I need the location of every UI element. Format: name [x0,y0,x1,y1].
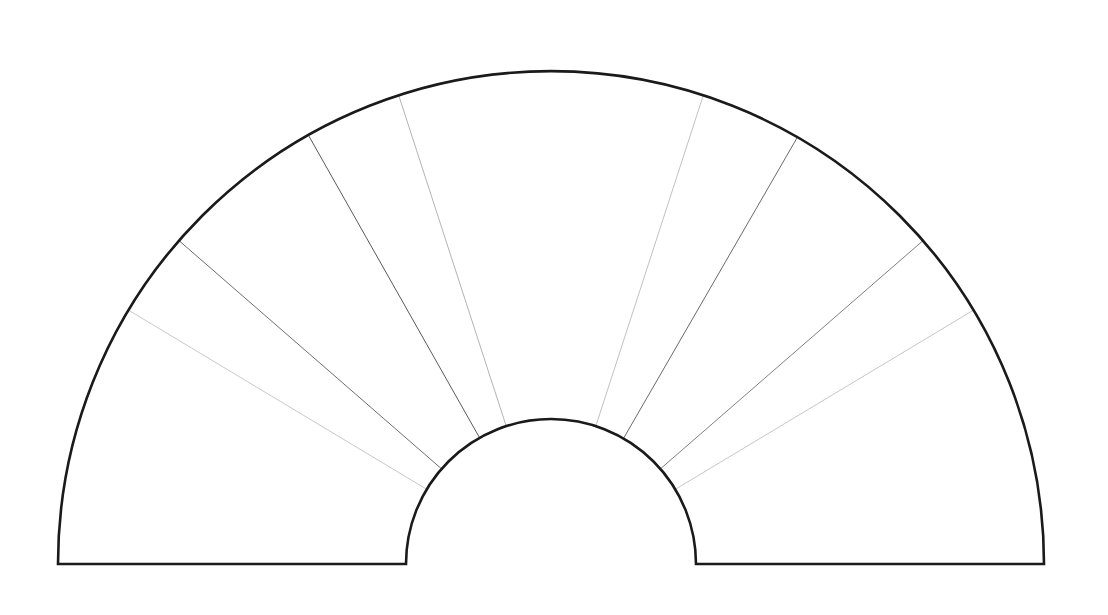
divider-7 [660,241,923,469]
divider-5 [596,95,704,426]
divider-lines-group [128,95,973,489]
divider-1 [128,310,426,489]
annulus-outline-path [58,71,1044,564]
semicircular-annulus-figure [0,0,1108,615]
divider-3 [308,135,479,438]
divider-8 [675,310,973,489]
divider-6 [624,137,798,438]
divider-2 [179,241,442,469]
divider-4 [399,95,507,426]
annulus-outline-group [58,71,1044,564]
figure-canvas [0,0,1108,615]
